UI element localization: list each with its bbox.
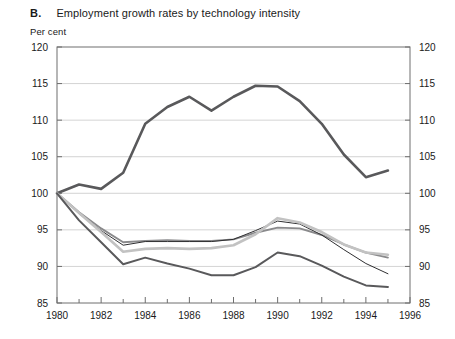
y-axis-tick-label-left-95: 95 [37,224,49,235]
y-axis-tick-label-left-90: 90 [37,261,49,272]
y-axis-tick-label-right-115: 115 [419,78,435,89]
x-axis-tick-label-1992: 1992 [311,310,334,321]
y-axis-tick-label-right-95: 95 [419,224,431,235]
y-axis-tick-label-right-110: 110 [419,115,435,126]
series-line-high-technology [57,86,388,194]
x-axis-tick-label-1996: 1996 [399,310,422,321]
y-axis-tick-label-left-115: 115 [32,78,48,89]
y-axis-tick-label-right-120: 120 [419,42,436,53]
x-axis-tick-label-1990: 1990 [267,310,290,321]
x-axis-tick-label-1982: 1982 [90,310,113,321]
y-axis-tick-label-left-85: 85 [37,298,49,309]
plot-frame [57,47,410,303]
series-line-medium-low-technology [57,193,388,273]
y-axis-tick-label-right-100: 100 [419,188,436,199]
x-axis-tick-label-1984: 1984 [134,310,157,321]
x-axis-tick-label-1986: 1986 [178,310,201,321]
y-axis-tick-label-left-110: 110 [32,115,48,126]
y-axis-tick-label-left-120: 120 [31,42,48,53]
y-axis-tick-label-right-85: 85 [419,298,431,309]
x-axis-tick-label-1988: 1988 [222,310,245,321]
y-axis-tick-label-right-90: 90 [419,261,431,272]
chart-plot-area: 8585909095951001001051051101101151151201… [0,0,455,339]
line-chart: 8585909095951001001051051101101151151201… [0,0,455,339]
series-group [57,86,388,287]
x-axis-tick-label-1980: 1980 [46,310,69,321]
figure-panel: B. Employment growth rates by technology… [0,0,455,339]
y-axis-tick-label-right-105: 105 [419,151,436,162]
x-axis-tick-label-1994: 1994 [355,310,378,321]
y-axis-tick-label-left-105: 105 [31,151,48,162]
y-axis-tick-label-left-100: 100 [31,188,48,199]
